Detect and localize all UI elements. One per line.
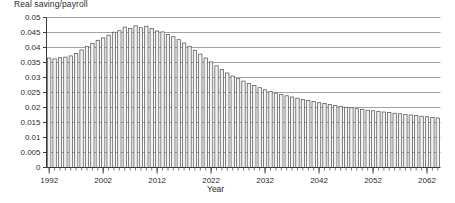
bar [415,116,418,168]
bar [393,113,396,167]
bar [236,79,239,168]
x-tick-label: 2022 [202,176,220,185]
y-tick-label: 0.035 [20,58,41,67]
bar [155,31,158,168]
bar [69,56,72,168]
bar [355,109,358,168]
bar [172,37,175,168]
bar [280,95,283,168]
x-tick-label: 2052 [364,176,382,185]
bar [388,113,391,168]
bar [48,58,51,168]
bar [420,116,423,167]
bar [436,118,439,168]
bar [80,50,83,168]
bar [307,101,310,168]
bar [404,114,407,167]
bar [199,54,202,167]
bar [118,31,121,168]
x-tick-label: 2012 [148,176,166,185]
bar [102,38,105,168]
bar [145,26,148,167]
bar [263,90,266,168]
bar [85,46,88,167]
bar [75,54,78,168]
y-tick-label: 0.03 [25,73,41,82]
bar [215,66,218,168]
bar [177,40,180,168]
bar [344,107,347,167]
bar [107,35,110,167]
bar [328,105,331,168]
y-tick-label: 0.05 [25,13,41,22]
bar [382,112,385,168]
bar [204,58,207,168]
bar [274,93,277,167]
bar [312,102,315,168]
bar [431,117,434,167]
chart-container: Real saving/payroll Year 00.0050.010.015… [0,0,455,203]
y-tick-label: 0.04 [25,43,41,52]
bar [91,43,94,167]
bar [139,28,142,168]
bar [366,110,369,167]
chart-plot: 00.0050.010.0150.020.0250.030.0350.040.0… [0,0,455,203]
bar [253,86,256,168]
y-tick-label: 0.045 [20,28,41,37]
bar [231,76,234,168]
x-axis: 19922002201220222032204220522062 [40,168,440,185]
bar [334,105,337,167]
bar [161,32,164,168]
bar [112,32,115,167]
bar [361,109,364,167]
y-tick-label: 0.01 [25,133,41,142]
bar [409,115,412,168]
x-tick-label: 2002 [94,176,112,185]
y-tick-label: 0 [36,163,41,172]
x-tick-label: 2032 [256,176,274,185]
bar [247,84,250,168]
x-tick-label: 1992 [40,176,58,185]
bar [258,88,261,168]
bar [53,59,56,168]
y-tick-label: 0.015 [20,118,41,127]
bar [226,73,229,168]
bar [123,27,126,167]
bar [371,111,374,168]
bar [398,114,401,168]
bar [285,96,288,168]
y-axis: 00.0050.010.0150.020.0250.030.0350.040.0… [20,13,46,172]
bar [323,104,326,168]
bar [96,40,99,167]
bar [296,98,299,167]
bar [128,29,131,168]
bar [242,81,245,167]
y-tick-label: 0.02 [25,103,41,112]
bar [269,92,272,168]
bar [64,57,67,167]
bar [209,62,212,168]
y-tick-label: 0.005 [20,148,41,157]
bar [166,35,169,168]
bar [220,69,223,167]
bar [350,108,353,168]
bar [193,50,196,167]
bar [425,117,428,168]
bar [58,58,61,168]
bar [377,111,380,167]
bar [317,103,320,168]
bar [150,29,153,168]
bar [290,97,293,168]
bar [301,99,304,167]
bar [182,43,185,168]
x-tick-label: 2042 [310,176,328,185]
bar [188,46,191,167]
bar [339,106,342,167]
bar [134,26,137,168]
y-tick-label: 0.025 [20,88,41,97]
x-tick-label: 2062 [418,176,436,185]
